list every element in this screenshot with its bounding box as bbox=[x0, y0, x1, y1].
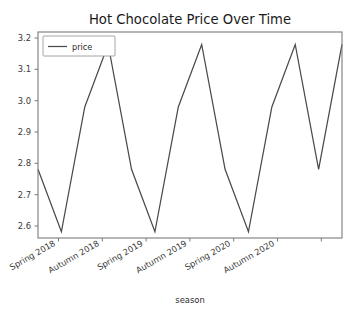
chart-legend[interactable]: price bbox=[43, 36, 115, 56]
y-tick-label: 3.2 bbox=[18, 33, 31, 43]
chart-title: Hot Chocolate Price Over Time bbox=[89, 12, 291, 27]
chart-figure: Hot Chocolate Price Over Time 2.6 2.7 2.… bbox=[0, 0, 358, 323]
plot-background bbox=[38, 32, 342, 238]
x-axis-tick-labels: Spring 2018 Autumn 2018 Spring 2019 Autu… bbox=[8, 238, 276, 275]
line-chart: Hot Chocolate Price Over Time 2.6 2.7 2.… bbox=[0, 0, 358, 323]
x-axis-label: season bbox=[175, 295, 204, 305]
y-tick-label: 2.6 bbox=[18, 221, 31, 231]
y-tick-label: 2.8 bbox=[18, 158, 31, 168]
y-tick-label: 3.0 bbox=[18, 96, 31, 106]
y-tick-label: 2.7 bbox=[18, 190, 31, 200]
y-axis-tick-labels: 2.6 2.7 2.8 2.9 3.0 3.1 3.2 bbox=[18, 33, 31, 231]
legend-entry-label: price bbox=[72, 42, 92, 52]
y-tick-label: 2.9 bbox=[18, 127, 31, 137]
y-tick-label: 3.1 bbox=[18, 64, 31, 74]
